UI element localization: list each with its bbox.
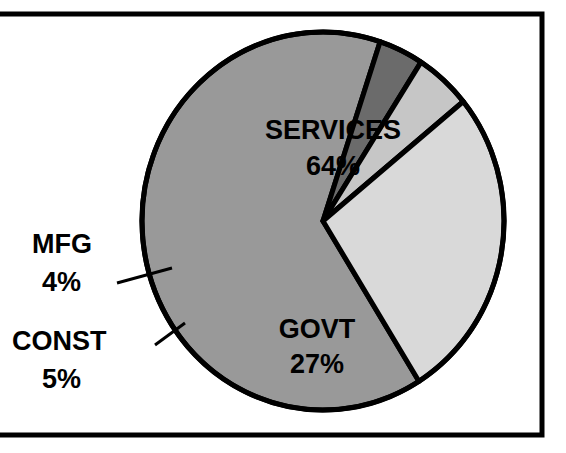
callout-value-mfg: 4% — [42, 267, 81, 297]
slice-value-govt: 27% — [290, 349, 344, 379]
callout-label-const: CONST — [12, 326, 107, 356]
pie-chart-figure: SERVICES 64% GOVT 27% MFG 4% CONST 5% — [0, 0, 566, 453]
callout-value-const: 5% — [42, 364, 81, 394]
slice-label-govt: GOVT — [279, 314, 356, 344]
slice-value-services: 64% — [306, 151, 360, 181]
slice-label-services: SERVICES — [265, 115, 401, 145]
callout-label-mfg: MFG — [32, 229, 92, 259]
pie-chart-canvas: SERVICES 64% GOVT 27% MFG 4% CONST 5% — [0, 0, 566, 453]
